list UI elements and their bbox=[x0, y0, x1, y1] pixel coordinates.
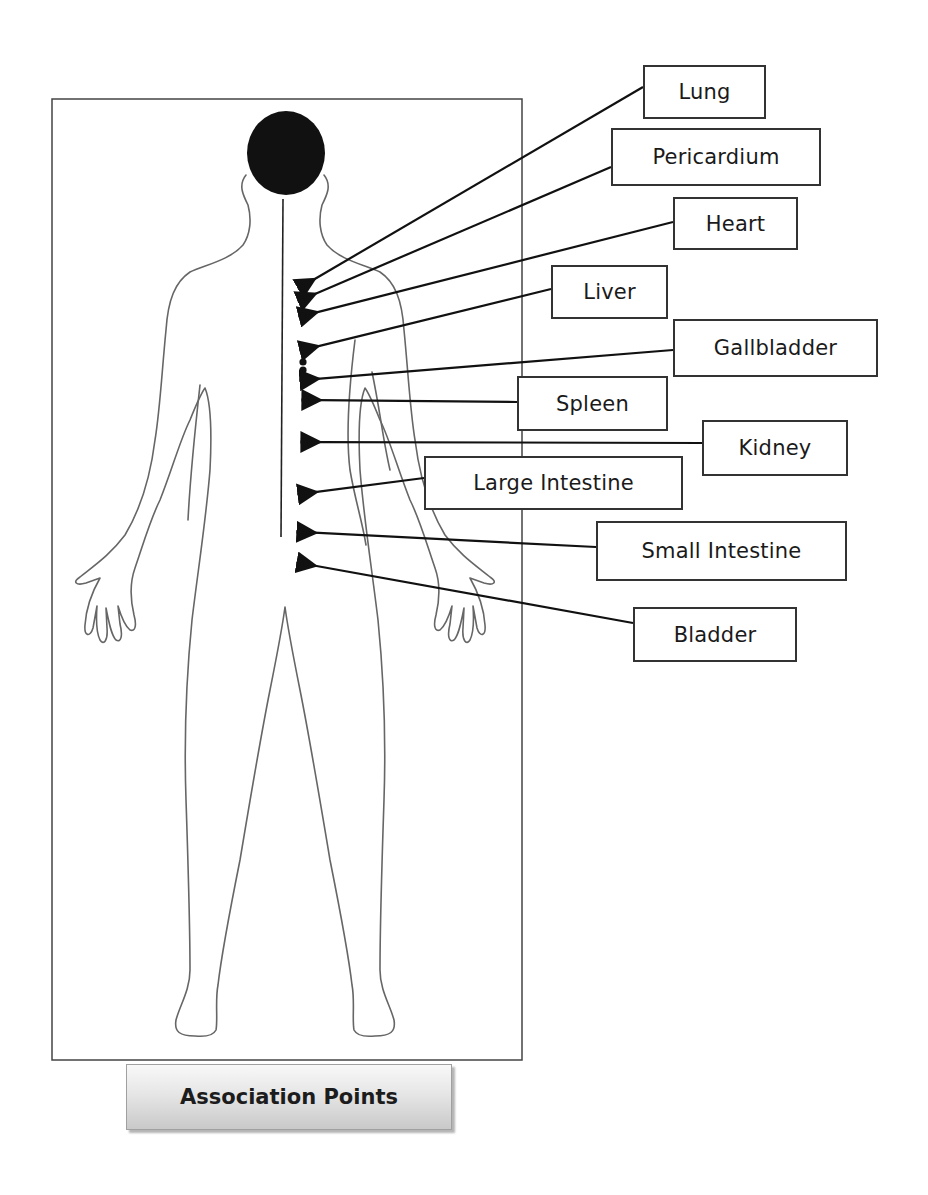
label-pericardium: Pericardium bbox=[611, 128, 821, 186]
label-large-intestine: Large Intestine bbox=[424, 456, 683, 510]
association-points-diagram: LungPericardiumHeartLiverGallbladderSple… bbox=[0, 0, 928, 1195]
point-spleen bbox=[301, 396, 308, 403]
arrow-kidney bbox=[318, 442, 702, 443]
point-bladder bbox=[296, 559, 303, 566]
point-kidney bbox=[300, 438, 307, 445]
arrow-large-intestine bbox=[315, 478, 424, 492]
label-lung: Lung bbox=[643, 65, 766, 119]
label-small-intestine: Small Intestine bbox=[596, 521, 847, 581]
arrow-lung bbox=[313, 87, 643, 280]
label-heart: Heart bbox=[673, 197, 798, 250]
figure-frame bbox=[52, 99, 522, 1060]
point-pericardium bbox=[297, 296, 304, 303]
label-spleen: Spleen bbox=[517, 376, 668, 431]
arrow-small-intestine bbox=[314, 533, 596, 547]
point-large-intestine bbox=[297, 490, 304, 497]
point-heart bbox=[298, 312, 305, 319]
label-gallbladder: Gallbladder bbox=[673, 319, 878, 377]
body-outline bbox=[76, 175, 495, 1036]
point-marker bbox=[299, 358, 306, 365]
point-small-intestine bbox=[296, 528, 303, 535]
point-gallbladder bbox=[299, 376, 306, 383]
point-marker bbox=[299, 366, 306, 373]
label-bladder: Bladder bbox=[633, 607, 797, 662]
point-layer bbox=[296, 283, 308, 566]
point-liver bbox=[299, 346, 306, 353]
spine-line bbox=[281, 199, 283, 537]
label-kidney: Kidney bbox=[702, 420, 848, 476]
diagram-title: Association Points bbox=[126, 1064, 452, 1130]
label-liver: Liver bbox=[551, 265, 668, 319]
head-silhouette bbox=[247, 111, 325, 195]
point-lung bbox=[297, 283, 304, 290]
arrow-gallbladder bbox=[317, 350, 673, 379]
arrow-liver bbox=[317, 289, 551, 347]
